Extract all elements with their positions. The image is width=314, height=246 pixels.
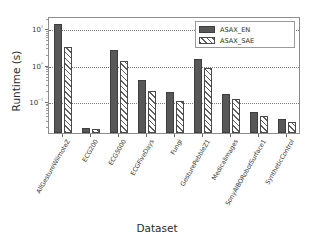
y-axis-minor-tick	[46, 91, 48, 92]
legend-swatch-asax-en	[199, 26, 215, 33]
legend-swatch-asax-sae	[199, 37, 215, 44]
y-axis-minor-tick	[46, 116, 48, 117]
x-axis-tick	[286, 134, 287, 137]
y-axis-minor-tick	[46, 74, 48, 75]
bar-asax-sae	[260, 116, 268, 133]
y-axis-tick-label: 10⁰	[32, 60, 43, 70]
bar-asax-sae	[288, 122, 296, 133]
x-axis-tick	[62, 134, 63, 137]
y-axis-minor-tick	[46, 44, 48, 45]
x-axis-tick	[258, 134, 259, 137]
bar-asax-sae	[120, 61, 128, 133]
y-axis-minor-tick	[46, 71, 48, 72]
bar-asax-sae	[232, 99, 240, 133]
x-axis-tick	[174, 134, 175, 137]
y-axis-minor-tick	[46, 105, 48, 106]
x-axis-tick	[118, 134, 119, 137]
bar-asax-en	[250, 112, 258, 133]
bar-asax-en	[278, 119, 286, 133]
bar-asax-en	[82, 128, 90, 133]
x-axis-tick	[230, 134, 231, 137]
bar-asax-sae	[92, 129, 100, 133]
bar-asax-sae	[148, 91, 156, 133]
x-axis-tick	[146, 134, 147, 137]
y-axis-minor-tick	[46, 35, 48, 36]
y-axis-minor-tick	[46, 37, 48, 38]
bar-asax-en	[222, 94, 230, 133]
bar-asax-en	[138, 80, 146, 133]
y-axis-minor-tick	[46, 33, 48, 34]
y-axis-minor-tick	[46, 80, 48, 81]
legend-entry-asax-sae: ASAX_SAE	[199, 35, 291, 46]
chart-figure: ASAX_EN ASAX_SAE 10¹10⁰10⁻¹ Runtime (s) …	[0, 0, 314, 246]
x-axis-tick	[90, 134, 91, 137]
y-axis-minor-tick	[46, 48, 48, 49]
y-axis-tick-label: 10⁻¹	[29, 97, 43, 107]
x-axis-tick-label: AllGestureWiimoteZ	[34, 138, 71, 194]
y-axis-minor-tick	[46, 110, 48, 111]
x-axis-tick-label: ECG200	[80, 138, 98, 163]
bar-asax-en	[194, 59, 202, 133]
x-axis-tick-label: Fungi	[168, 138, 182, 156]
y-axis-minor-tick	[46, 67, 48, 68]
y-axis-minor-tick	[46, 55, 48, 56]
y-axis-minor-tick	[46, 108, 48, 109]
legend-label-asax-sae: ASAX_SAE	[220, 37, 254, 45]
x-axis-tick-label: GesturePebbleZ1	[178, 138, 210, 187]
plot-area: ASAX_EN ASAX_SAE	[48, 17, 300, 134]
bar-asax-en	[110, 50, 118, 133]
y-axis-minor-tick	[46, 113, 48, 114]
y-axis-minor-tick	[46, 19, 48, 20]
bar-asax-sae	[176, 101, 184, 133]
legend-label-asax-en: ASAX_EN	[220, 26, 250, 34]
y-axis-minor-tick	[46, 127, 48, 128]
y-axis-minor-tick	[46, 31, 48, 32]
y-axis-minor-tick	[46, 85, 48, 86]
legend-entry-asax-en: ASAX_EN	[199, 24, 291, 35]
bar-asax-en	[54, 24, 62, 133]
y-axis-tick-label: 10¹	[32, 24, 43, 34]
chart-legend: ASAX_EN ASAX_SAE	[195, 21, 295, 48]
bar-asax-sae	[64, 47, 72, 133]
y-axis-title: Runtime (s)	[10, 21, 22, 141]
x-axis-title: Dataset	[0, 222, 314, 234]
x-axis-tick-label: SyntheticControl	[263, 138, 295, 186]
x-axis-tick	[202, 134, 203, 137]
bar-asax-en	[166, 92, 174, 133]
y-axis-minor-tick	[46, 104, 48, 105]
x-axis-tick-label: MedicalImages	[210, 138, 239, 181]
x-axis-tick-label: ECGFiveDays	[128, 138, 154, 176]
y-axis-minor-tick	[46, 69, 48, 70]
y-axis-minor-tick	[46, 77, 48, 78]
y-axis-minor-tick	[46, 121, 48, 122]
bar-asax-sae	[204, 68, 212, 133]
x-axis-tick-label: ECG5000	[106, 138, 126, 166]
y-axis-minor-tick	[46, 40, 48, 41]
